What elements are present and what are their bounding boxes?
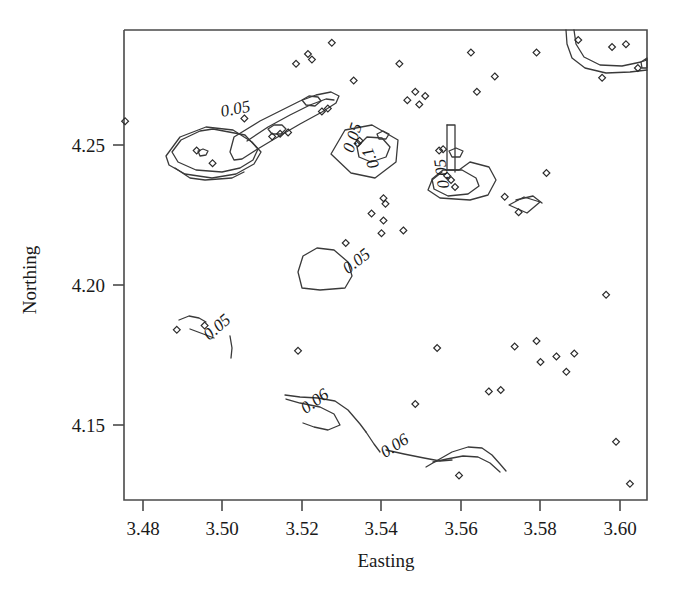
plot-canvas: 3.48 3.50 3.52 3.54 3.56 3.58 3.60 4.25 …: [0, 0, 682, 600]
contour-label: 0.06: [297, 384, 333, 417]
contour-plot-figure: 3.48 3.50 3.52 3.54 3.56 3.58 3.60 4.25 …: [0, 0, 682, 600]
contour-path-topright-inner: [574, 30, 647, 66]
contour-label: 0.1: [358, 145, 384, 172]
data-point-marker: [571, 350, 578, 357]
contour-path-diamond-right: [509, 197, 540, 213]
data-point-marker: [434, 345, 441, 352]
x-tick-label-5: 3.58: [523, 518, 556, 539]
contour-path-0.05-lower-left-a: [179, 316, 206, 322]
data-point-marker: [350, 77, 357, 84]
x-axis-ticks: [143, 500, 620, 511]
data-point-marker: [511, 343, 518, 350]
data-point-marker: [309, 56, 316, 63]
contour-lines-group: [166, 30, 647, 472]
data-point-marker: [209, 160, 216, 167]
data-point-marker: [422, 93, 429, 100]
data-point-marker: [328, 39, 335, 46]
data-point-marker: [553, 353, 560, 360]
data-point-marker: [305, 51, 312, 58]
x-axis-title: Easting: [358, 550, 415, 571]
data-point-marker: [400, 227, 407, 234]
data-point-marker: [563, 368, 570, 375]
x-tick-label-3: 3.54: [364, 518, 398, 539]
contour-path-0.05-lower-left-c: [230, 336, 232, 358]
y-axis-ticks: [113, 145, 124, 425]
y-tick-label-0: 4.25: [72, 135, 105, 156]
data-point-marker: [412, 401, 419, 408]
data-point-marker: [501, 193, 508, 200]
data-point-marker: [295, 347, 302, 354]
data-point-marker: [380, 217, 387, 224]
data-point-marker: [396, 60, 403, 67]
data-point-marker: [623, 41, 630, 48]
x-tick-label-6: 3.60: [603, 518, 636, 539]
data-points-group: [122, 37, 642, 488]
contour-path-0.06-right-c: [433, 456, 500, 472]
data-point-marker: [497, 387, 504, 394]
contour-path-topright-nub: [641, 58, 647, 68]
data-point-marker: [368, 210, 375, 217]
y-tick-label-2: 4.15: [72, 415, 105, 436]
contour-label: 0.05: [430, 158, 453, 190]
data-point-marker: [599, 74, 606, 81]
contour-label: 0.05: [199, 310, 234, 344]
contour-label: 0.06: [377, 429, 413, 461]
data-point-marker: [404, 97, 411, 104]
data-point-marker: [378, 230, 385, 237]
data-point-marker: [474, 88, 481, 95]
x-tick-label-4: 3.56: [444, 518, 477, 539]
x-tick-label-0: 3.48: [126, 518, 159, 539]
contour-path-ring-pentagon: [377, 131, 389, 139]
data-point-marker: [468, 49, 475, 56]
x-axis-tick-labels: 3.48 3.50 3.52 3.54 3.56 3.58 3.60: [126, 518, 636, 539]
data-point-marker: [609, 44, 616, 51]
data-point-marker: [537, 359, 544, 366]
data-point-marker: [491, 73, 498, 80]
data-point-marker: [122, 118, 129, 125]
y-axis-tick-labels: 4.25 4.20 4.15: [72, 135, 105, 436]
data-point-marker: [412, 88, 419, 95]
data-point-marker: [613, 438, 620, 445]
data-point-marker: [543, 170, 550, 177]
y-axis-title: Northing: [19, 245, 40, 314]
contour-path-0.05-a-inner: [166, 127, 261, 178]
data-point-marker: [293, 60, 300, 67]
x-tick-label-2: 3.52: [285, 518, 318, 539]
data-point-marker: [342, 240, 349, 247]
data-point-marker: [533, 49, 540, 56]
data-point-marker: [456, 472, 463, 479]
data-point-marker: [603, 291, 610, 298]
contour-label: 0.05: [339, 121, 366, 155]
contour-label: 0.05: [339, 244, 374, 277]
data-point-marker: [173, 326, 180, 333]
x-tick-label-1: 3.50: [205, 518, 238, 539]
data-point-marker: [627, 480, 634, 487]
data-point-marker: [416, 101, 423, 108]
plot-frame: [124, 30, 647, 500]
contour-path-ring-center: [449, 148, 463, 157]
contour-path-ring-ridge-1: [268, 125, 286, 134]
data-point-marker: [533, 338, 540, 345]
data-point-marker: [485, 388, 492, 395]
y-tick-label-1: 4.20: [72, 275, 105, 296]
